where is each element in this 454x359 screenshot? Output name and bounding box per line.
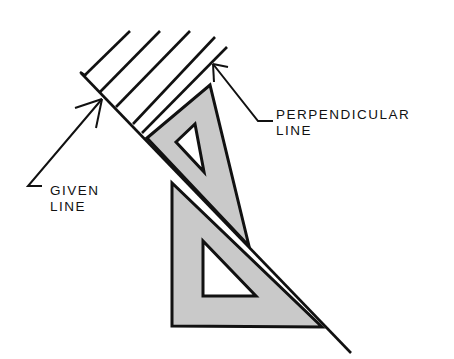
perpendicular-label-line2: LINE	[276, 123, 410, 139]
given-label-line1: GIVEN	[50, 183, 100, 199]
leader-given	[28, 99, 102, 186]
given-label-line2: LINE	[50, 199, 100, 215]
leader-perpendicular	[213, 64, 273, 121]
perpendicular-line-label: PERPENDICULAR LINE	[276, 107, 410, 139]
diagram-svg	[0, 0, 454, 359]
perpendicular-label-line1: PERPENDICULAR	[276, 107, 410, 123]
lower-triangle	[172, 183, 322, 327]
diagram-canvas: PERPENDICULAR LINE GIVEN LINE	[0, 0, 454, 359]
given-line-label: GIVEN LINE	[50, 183, 100, 215]
